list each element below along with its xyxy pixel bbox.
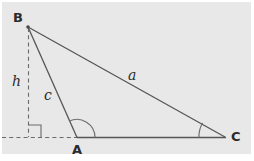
vertex-dot-b [26,25,30,29]
vertex-label-c: C [231,130,241,143]
figure-canvas: B A C a c h [0,0,254,161]
vertex-label-a: A [72,143,82,156]
right-angle-marker [29,125,42,138]
triangle-diagram [0,0,254,161]
angle-arc-c [199,123,203,138]
altitude-label-h: h [12,74,21,88]
vertex-label-b: B [13,11,23,24]
side-label-a: a [128,68,136,82]
side-bc-line [28,27,225,137]
side-label-c: c [44,88,52,102]
